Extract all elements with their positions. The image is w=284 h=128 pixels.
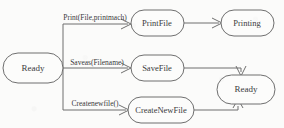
- node-createnewfile[interactable]: CreateNewFile: [128, 97, 194, 123]
- node-createnewfile-label: CreateNewFile: [135, 105, 187, 115]
- edge-label-saveas: Saveas(Filename): [70, 58, 124, 67]
- diagram-svg: Ready PrintFile Printing SaveFile Create…: [0, 0, 284, 128]
- edge-label-createnewfile: Createnewfile(): [71, 99, 119, 108]
- node-ready-start[interactable]: Ready: [3, 53, 63, 83]
- node-ready-start-label: Ready: [22, 63, 45, 73]
- node-ready-end-label: Ready: [235, 84, 258, 94]
- node-ready-end[interactable]: Ready: [217, 75, 275, 104]
- node-printing-label: Printing: [233, 18, 261, 28]
- node-printfile[interactable]: PrintFile: [131, 10, 184, 36]
- edge-printfile-printing: [184, 18, 222, 28]
- edge-label-print: Print(File,printmach): [63, 13, 127, 22]
- diagram-canvas: Ready PrintFile Printing SaveFile Create…: [0, 0, 284, 128]
- node-printfile-label: PrintFile: [142, 18, 172, 28]
- node-printing[interactable]: Printing: [221, 10, 274, 36]
- node-savefile[interactable]: SaveFile: [131, 55, 184, 81]
- node-savefile-label: SaveFile: [142, 63, 172, 73]
- edge-createnewfile: [63, 68, 129, 115]
